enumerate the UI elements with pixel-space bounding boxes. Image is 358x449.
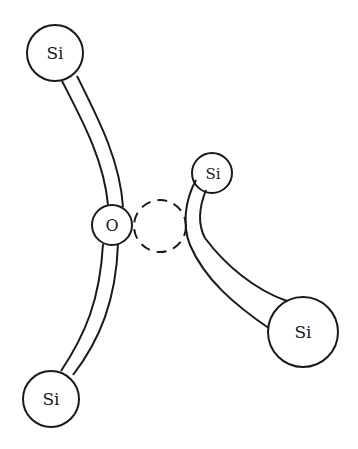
atom-si-large: Si [268, 297, 338, 367]
atom-si-bottom: Si [23, 371, 79, 427]
atom-si-small: Si [192, 153, 232, 193]
atom-si-top: Si [27, 25, 83, 81]
atom-label: O [105, 216, 118, 235]
bond-si-small-si-large [185, 180, 287, 329]
atom-label: Si [46, 43, 64, 63]
bond-o-si-bottom [61, 244, 118, 375]
atom-label: Si [42, 389, 60, 409]
atom-oxygen: O [92, 205, 132, 245]
vacancy-circle [134, 200, 186, 252]
atom-label: Si [294, 322, 312, 342]
bond-si-top-o [62, 76, 123, 207]
atom-label: Si [205, 165, 220, 183]
si-o-si-vacancy-diagram: Si O Si Si Si [0, 0, 358, 449]
